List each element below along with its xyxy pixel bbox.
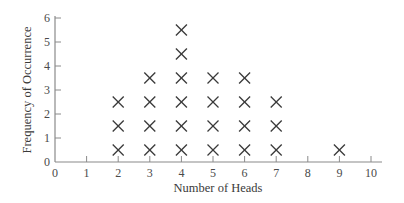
x-marker [239, 73, 250, 84]
y-tick-label: 0 [44, 155, 50, 169]
x-marker [144, 121, 155, 132]
x-marker [271, 121, 282, 132]
x-marker [176, 49, 187, 60]
x-marker [334, 145, 345, 156]
x-tick-label: 6 [242, 166, 248, 180]
y-tick-label: 1 [44, 131, 50, 145]
y-tick-label: 4 [44, 59, 50, 73]
x-marker [144, 97, 155, 108]
x-marker [176, 145, 187, 156]
x-marker [239, 121, 250, 132]
x-marker [144, 73, 155, 84]
x-tick-label: 0 [52, 166, 58, 180]
dot-plot: 012345678910 0123456 Number of Heads Fre… [0, 0, 404, 203]
x-axis-ticks: 012345678910 [52, 156, 377, 180]
x-marker [144, 145, 155, 156]
x-marker [176, 25, 187, 36]
x-marker [208, 73, 219, 84]
x-marker [239, 97, 250, 108]
y-tick-label: 3 [44, 83, 50, 97]
axes [55, 16, 382, 162]
x-marker [176, 97, 187, 108]
y-tick-label: 2 [44, 107, 50, 121]
y-axis-label: Frequency of Occurrence [20, 26, 34, 153]
x-tick-label: 10 [365, 166, 377, 180]
x-tick-label: 3 [147, 166, 153, 180]
data-markers [113, 25, 345, 156]
y-tick-label: 5 [44, 35, 50, 49]
x-marker [176, 121, 187, 132]
x-axis-label: Number of Heads [174, 181, 263, 195]
x-marker [113, 121, 124, 132]
x-marker [239, 145, 250, 156]
x-marker [208, 121, 219, 132]
x-tick-label: 1 [84, 166, 90, 180]
y-tick-label: 6 [44, 11, 50, 25]
x-marker [113, 97, 124, 108]
x-tick-label: 4 [178, 166, 184, 180]
x-marker [271, 145, 282, 156]
x-marker [208, 145, 219, 156]
x-tick-label: 7 [273, 166, 279, 180]
x-tick-label: 5 [210, 166, 216, 180]
x-marker [113, 145, 124, 156]
x-tick-label: 9 [336, 166, 342, 180]
x-tick-label: 8 [305, 166, 311, 180]
x-marker [208, 97, 219, 108]
y-axis-ticks: 0123456 [44, 11, 61, 169]
x-tick-label: 2 [115, 166, 121, 180]
x-marker [271, 97, 282, 108]
x-marker [176, 73, 187, 84]
